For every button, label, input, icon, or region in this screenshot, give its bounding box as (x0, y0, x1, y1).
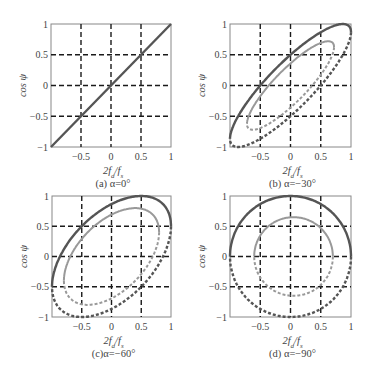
y-tick-label: −0.5 (209, 111, 227, 122)
y-tick-label: 0.5 (215, 49, 228, 60)
x-tick-label: 0 (288, 321, 293, 332)
y-tick-label: 1 (222, 191, 227, 202)
y-tick-label: −1 (216, 312, 227, 323)
x-tick-label: 0 (109, 151, 114, 162)
subplot-b: 10.50−0.5−1−0.500.51cos ψ2fd/fs(b) α=−30… (196, 19, 354, 191)
y-tick-label: 0.5 (37, 221, 50, 232)
y-tick-label: −0.5 (31, 281, 49, 292)
y-axis-label: cos ψ (196, 244, 207, 268)
y-tick-label: 1 (222, 19, 227, 30)
y-axis-label: cos ψ (196, 73, 207, 97)
subplot-caption: (d) α=−90° (269, 348, 316, 360)
y-tick-label: 0 (222, 80, 227, 91)
y-tick-label: −1 (38, 312, 49, 323)
x-tick-label: −0.5 (72, 151, 90, 162)
y-tick-label: 0 (43, 80, 48, 91)
y-tick-label: 1 (44, 191, 49, 202)
y-tick-label: −0.5 (30, 111, 48, 122)
x-tick-label: 1 (169, 151, 174, 162)
y-tick-label: 0.5 (36, 49, 49, 60)
subplot-c: 10.50−0.5−1−0.500.51cos ψ2fd/fs(c)α=−60° (18, 191, 174, 361)
subplot-caption: (a) α=0° (95, 178, 130, 190)
x-tick-label: 0.5 (315, 151, 328, 162)
y-axis-label: cos ψ (18, 244, 29, 268)
subplot-caption: (c)α=−60° (92, 348, 136, 360)
x-tick-label: −0.5 (251, 321, 269, 332)
x-tick-label: 0 (109, 321, 114, 332)
x-tick-label: 0 (288, 151, 293, 162)
x-tick-label: 0.5 (135, 321, 148, 332)
x-tick-label: 1 (349, 321, 354, 332)
figure-canvas: 10.50−0.5−1−0.500.51cos ψ2fd/fs(a) α=0°1… (0, 0, 371, 387)
y-tick-label: −1 (216, 142, 227, 153)
y-tick-label: 0 (44, 251, 49, 262)
x-tick-label: 1 (349, 151, 354, 162)
y-tick-label: −1 (37, 142, 48, 153)
x-tick-label: 1 (169, 321, 174, 332)
y-tick-label: −0.5 (209, 281, 227, 292)
y-axis-label: cos ψ (17, 73, 28, 97)
subplot-a: 10.50−0.5−1−0.500.51cos ψ2fd/fs(a) α=0° (17, 19, 174, 191)
y-tick-label: 0 (222, 251, 227, 262)
subplot-d: 10.50−0.5−1−0.500.51cos ψ2fd/fs(d) α=−90… (196, 191, 354, 361)
y-tick-label: 1 (43, 19, 48, 30)
x-tick-label: 0.5 (135, 151, 148, 162)
x-tick-label: 0.5 (315, 321, 328, 332)
x-tick-label: −0.5 (251, 151, 269, 162)
y-tick-label: 0.5 (215, 221, 228, 232)
x-tick-label: −0.5 (73, 321, 91, 332)
subplot-caption: (b) α=−30° (269, 178, 316, 190)
